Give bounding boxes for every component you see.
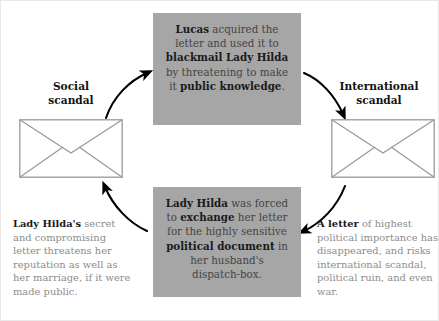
social-scandal-label-line2: scandal <box>11 94 131 108</box>
social-scandal-label-line1: Social <box>11 80 131 94</box>
social-scandal-label: Social scandal <box>11 80 131 107</box>
diagram-canvas: Lucas acquired the letter and used it to… <box>0 0 439 321</box>
card-top-text: Lucas acquired the letter and used it to… <box>166 23 288 92</box>
envelope-icon <box>19 119 123 178</box>
card-bottom-text: Lady Hilda was forced to exchange her le… <box>166 197 288 280</box>
international-scandal-description: A letter of highest political importance… <box>317 217 439 299</box>
international-scandal-label-line1: International <box>319 80 439 94</box>
international-scandal-label-line2: scandal <box>319 94 439 108</box>
envelope-icon <box>331 119 435 178</box>
lady-hilda-exchange-card: Lady Hilda was forced to exchange her le… <box>153 187 301 297</box>
lucas-blackmail-card: Lucas acquired the letter and used it to… <box>153 13 301 125</box>
international-scandal-description-text: A letter of highest political importance… <box>317 218 438 297</box>
social-scandal-description: Lady Hilda's secret and compromising let… <box>13 217 135 299</box>
social-scandal-description-text: Lady Hilda's secret and compromising let… <box>13 218 130 297</box>
international-scandal-label: International scandal <box>319 80 439 107</box>
